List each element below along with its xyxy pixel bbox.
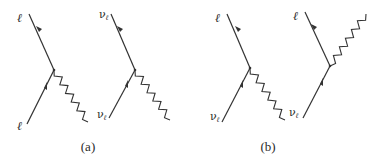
label-outgoing: ℓ: [17, 11, 22, 25]
arrow-icon: [235, 26, 241, 32]
incoming-fermion-line: [303, 66, 330, 118]
label-outgoing: ℓ: [293, 9, 298, 23]
diagram-b1: ℓ νℓ: [210, 11, 285, 124]
vertex-dot: [134, 69, 137, 72]
outgoing-fermion-line: [29, 14, 54, 70]
incoming-fermion-line: [222, 68, 250, 122]
vertex-dot: [53, 69, 56, 72]
boson-wavy-line: [250, 68, 285, 120]
caption-b: (b): [260, 139, 275, 154]
outgoing-fermion-line: [111, 14, 135, 70]
label-outgoing: ℓ: [215, 11, 220, 25]
outgoing-fermion-line: [305, 12, 330, 66]
boson-wavy-line: [330, 14, 366, 66]
feynman-diagrams: ℓ ℓ νℓ νℓ ℓ νℓ ℓ νℓ (a) (b): [0, 0, 383, 165]
diagram-a2: νℓ νℓ: [97, 8, 170, 122]
label-incoming: νℓ: [289, 106, 299, 120]
diagram-b2: ℓ νℓ: [289, 9, 366, 120]
caption-a: (a): [81, 139, 95, 154]
boson-wavy-line: [135, 70, 170, 120]
incoming-fermion-line: [109, 70, 135, 118]
incoming-fermion-line: [27, 70, 54, 124]
outgoing-fermion-line: [227, 14, 250, 68]
diagram-a1: ℓ ℓ: [17, 11, 88, 133]
label-incoming: νℓ: [97, 108, 107, 122]
vertex-dot: [249, 67, 252, 70]
boson-wavy-line: [54, 70, 88, 122]
label-outgoing: νℓ: [99, 8, 109, 22]
label-incoming: νℓ: [210, 110, 220, 124]
vertex-dot: [329, 65, 332, 68]
label-incoming: ℓ: [17, 119, 22, 133]
